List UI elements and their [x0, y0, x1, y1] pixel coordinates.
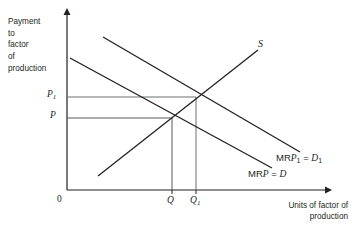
demand-shifted-curve-label: MRP1 = D1 — [276, 152, 322, 164]
demand-curve-mrp1 — [103, 37, 300, 152]
y-axis-caption: Payment to factor of production — [8, 16, 46, 74]
mrp1-equals: = — [301, 152, 312, 163]
quantity-low-label: Q — [167, 195, 174, 206]
guide-lines — [67, 97, 196, 190]
quantity-high-label: Q1 — [190, 195, 200, 206]
mrp1-p: P — [291, 153, 297, 163]
mrp1-d-subscript: 1 — [318, 157, 322, 164]
price-high-label: P1 — [47, 89, 56, 100]
mrp-equals: = — [269, 168, 280, 179]
demand-curve-mrp — [70, 58, 272, 168]
supply-curve-label: S — [258, 38, 263, 50]
mrp1-prefix: MR — [276, 152, 291, 163]
demand-base-curve-label: MRP = D — [248, 168, 286, 180]
quantity-high-letter: Q — [190, 195, 197, 205]
mrp1-subscript: 1 — [297, 157, 301, 164]
price-high-subscript: 1 — [53, 93, 57, 101]
x-axis-caption: Units of factor of production — [238, 200, 348, 222]
price-high-letter: P — [47, 89, 53, 99]
origin-label: 0 — [57, 194, 62, 205]
factor-market-diagram: Payment to factor of production Units of… — [0, 0, 352, 231]
mrp-prefix: MR — [248, 168, 263, 179]
quantity-high-subscript: 1 — [197, 199, 201, 207]
curves — [70, 37, 300, 176]
mrp-d: D — [279, 169, 286, 179]
price-low-label: P — [50, 110, 56, 121]
